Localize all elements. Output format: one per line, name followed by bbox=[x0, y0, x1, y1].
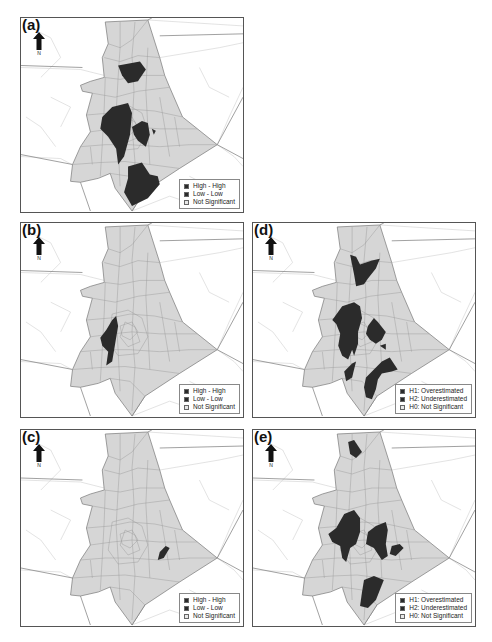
panel-label-a: (a) bbox=[22, 17, 40, 33]
legend-item: H0: Not Significant bbox=[400, 612, 467, 620]
legend-swatch-icon bbox=[400, 389, 405, 394]
legend-swatch-icon bbox=[400, 405, 405, 410]
legend-item: Low - Low bbox=[184, 604, 235, 612]
panel-label-d: (d) bbox=[254, 222, 273, 238]
legend-swatch-icon bbox=[400, 606, 405, 611]
legend-swatch-icon bbox=[184, 389, 189, 394]
north-arrow-icon: N bbox=[33, 32, 45, 56]
legend-swatch-icon bbox=[184, 192, 189, 197]
north-arrow-icon: N bbox=[265, 444, 277, 468]
legend-c: High - High Low - Low Not Significant bbox=[179, 593, 240, 623]
north-arrow-icon: N bbox=[265, 237, 277, 261]
legend-swatch-icon bbox=[184, 606, 189, 611]
north-arrow-icon: N bbox=[33, 444, 45, 468]
map-panel-a: (a) N High - High Low - Low Not Signific… bbox=[20, 17, 244, 213]
legend-b: High - High Low - Low Not Significant bbox=[179, 384, 240, 414]
legend-item: High - High bbox=[184, 596, 235, 604]
panel-label-c: (c) bbox=[22, 429, 40, 445]
legend-swatch-icon bbox=[400, 598, 405, 603]
legend-item: H1: Overestimated bbox=[400, 596, 467, 604]
legend-item: High - High bbox=[184, 387, 235, 395]
panel-label-e: (e) bbox=[254, 429, 272, 445]
legend-swatch-icon bbox=[400, 397, 405, 402]
legend-swatch-icon bbox=[184, 397, 189, 402]
legend-item: H2: Underestimated bbox=[400, 604, 467, 612]
legend-item: High - High bbox=[184, 182, 235, 190]
legend-swatch-icon bbox=[400, 614, 405, 619]
legend-swatch-icon bbox=[184, 184, 189, 189]
panel-label-b: (b) bbox=[22, 222, 41, 238]
legend-a: High - High Low - Low Not Significant bbox=[179, 179, 240, 209]
legend-item: H1: Overestimated bbox=[400, 387, 467, 395]
north-arrow-icon: N bbox=[33, 237, 45, 261]
map-panel-c: (c) N High - High Low - Low Not Signific… bbox=[20, 429, 244, 627]
legend-item: Not Significant bbox=[184, 403, 235, 411]
legend-item: H0: Not Significant bbox=[400, 403, 467, 411]
map-panel-d: (d) N H1: Overestimated H2: Underestimat… bbox=[252, 222, 476, 418]
legend-swatch-icon bbox=[184, 200, 189, 205]
legend-swatch-icon bbox=[184, 598, 189, 603]
legend-d: H1: Overestimated H2: Underestimated H0:… bbox=[395, 384, 472, 414]
legend-item: Not Significant bbox=[184, 198, 235, 206]
legend-item: H2: Underestimated bbox=[400, 395, 467, 403]
legend-item: Not Significant bbox=[184, 612, 235, 620]
legend-item: Low - Low bbox=[184, 190, 235, 198]
legend-swatch-icon bbox=[184, 614, 189, 619]
legend-item: Low - Low bbox=[184, 395, 235, 403]
legend-swatch-icon bbox=[184, 405, 189, 410]
legend-e: H1: Overestimated H2: Underestimated H0:… bbox=[395, 593, 472, 623]
map-panel-b: (b) N High - High Low - Low Not Signific… bbox=[20, 222, 244, 418]
map-panel-e: (e) N H1: Overestimated H2: Underestimat… bbox=[252, 429, 476, 627]
